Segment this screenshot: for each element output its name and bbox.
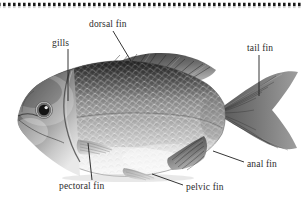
- label-tail-fin: tail fin: [247, 44, 273, 54]
- label-anal-fin: anal fin: [247, 160, 277, 170]
- fish-eye: [36, 102, 53, 119]
- label-dorsal-fin: dorsal fin: [89, 20, 127, 30]
- fish-anatomy-figure: [0, 0, 302, 210]
- label-pectoral-fin: pectoral fin: [59, 182, 104, 192]
- label-gills: gills: [52, 39, 69, 49]
- label-pelvic-fin: pelvic fin: [186, 183, 224, 193]
